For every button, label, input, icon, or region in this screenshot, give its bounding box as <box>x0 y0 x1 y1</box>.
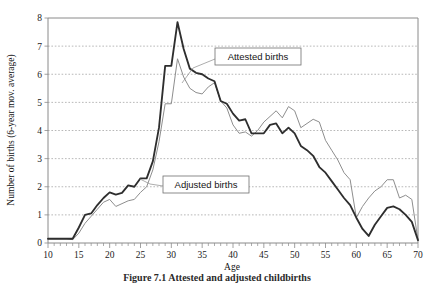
callout-leader-adjusted-births <box>140 179 163 186</box>
x-axis-ticks: 10152025303540455055606570 <box>43 243 423 260</box>
figure-caption: Figure 7.1 Attested and adjusted childbi… <box>123 272 311 283</box>
x-tick-label-15: 15 <box>74 250 84 260</box>
y-tick-label-1: 1 <box>37 210 42 220</box>
x-tick-label-55: 55 <box>321 250 331 260</box>
x-axis-title: Age <box>224 262 240 272</box>
y-tick-label-8: 8 <box>37 13 42 23</box>
figure-container: 012345678 10152025303540455055606570 Age… <box>0 0 435 283</box>
births-line-chart: 012345678 10152025303540455055606570 Age… <box>0 0 435 283</box>
x-tick-label-60: 60 <box>352 250 362 260</box>
callout-label-attested-births: Attested births <box>228 51 289 62</box>
y-tick-label-3: 3 <box>37 154 42 164</box>
y-tick-label-6: 6 <box>37 70 42 80</box>
series-line-adjusted-births <box>48 59 418 240</box>
x-tick-label-40: 40 <box>228 250 238 260</box>
y-axis-ticks: 012345678 <box>37 13 48 248</box>
x-tick-label-45: 45 <box>259 250 269 260</box>
y-tick-label-5: 5 <box>37 98 42 108</box>
x-tick-label-10: 10 <box>43 250 53 260</box>
y-tick-label-4: 4 <box>37 126 42 136</box>
x-tick-label-25: 25 <box>136 250 146 260</box>
x-tick-label-70: 70 <box>413 250 423 260</box>
x-tick-label-50: 50 <box>290 250 300 260</box>
y-axis-title: Number of births (6-year mov. average) <box>6 54 17 205</box>
y-tick-label-0: 0 <box>37 238 42 248</box>
callout-label-adjusted-births: Adjusted births <box>175 179 238 190</box>
x-tick-label-30: 30 <box>167 250 177 260</box>
x-tick-label-65: 65 <box>382 250 392 260</box>
x-tick-label-20: 20 <box>105 250 115 260</box>
x-tick-label-35: 35 <box>197 250 207 260</box>
y-tick-label-7: 7 <box>37 42 42 52</box>
y-tick-label-2: 2 <box>37 182 42 192</box>
